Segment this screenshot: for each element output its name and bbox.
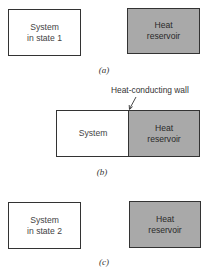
system-box-state-2: System in state 2 bbox=[8, 202, 81, 249]
system-box: System bbox=[56, 110, 129, 157]
system-label: System in state 2 bbox=[27, 215, 62, 237]
reservoir-label: Heat reservoir bbox=[147, 123, 180, 145]
caption-c: (c) bbox=[94, 257, 114, 267]
reservoir-label: Heat reservoir bbox=[148, 214, 181, 236]
caption-b: (b) bbox=[92, 167, 112, 177]
system-label: System bbox=[79, 128, 108, 139]
heat-reservoir-box: Heat reservoir bbox=[128, 110, 200, 157]
heat-reservoir-box: Heat reservoir bbox=[129, 201, 201, 248]
